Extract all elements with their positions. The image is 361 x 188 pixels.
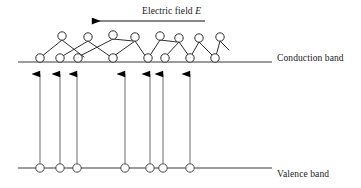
conduction-band-electrons	[36, 54, 219, 62]
excitation-arrows	[40, 74, 190, 165]
band-diagram-figure: Electric field E Conduction band Valence…	[0, 0, 361, 188]
conduction-peak-electrons	[58, 31, 224, 42]
conduction-band-label: Conduction band	[277, 53, 344, 63]
electric-field-symbol: E	[195, 6, 201, 16]
diagram-canvas	[0, 0, 361, 188]
electric-field-label-text: Electric field	[142, 6, 195, 16]
electric-field-label: Electric field E	[142, 6, 201, 16]
valence-band-label: Valence band	[277, 169, 329, 179]
